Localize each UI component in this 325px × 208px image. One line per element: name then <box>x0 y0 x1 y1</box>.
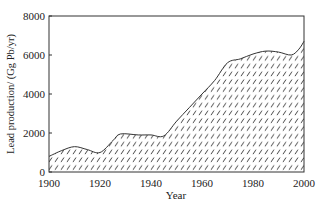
x-tick-label: 2000 <box>293 177 316 189</box>
x-tick-label: 1920 <box>89 177 112 189</box>
y-tick-label: 8000 <box>23 10 46 22</box>
plot-area <box>49 16 304 172</box>
area-chart: 02000400060008000 1900192019401960198020… <box>0 0 325 208</box>
y-axis: 02000400060008000 <box>23 10 52 178</box>
area-fill <box>49 41 304 172</box>
x-tick-label: 1960 <box>191 177 214 189</box>
y-tick-label: 2000 <box>23 127 46 139</box>
x-tick-label: 1980 <box>242 177 265 189</box>
y-axis-label: Lead production/ (Gg Pb/yr) <box>5 34 17 154</box>
x-axis-label: Year <box>166 189 187 201</box>
x-tick-label: 1940 <box>140 177 163 189</box>
y-tick-label: 4000 <box>23 88 46 100</box>
x-axis: 190019201940196019802000 <box>38 177 316 189</box>
y-tick-label: 6000 <box>23 49 46 61</box>
x-tick-label: 1900 <box>38 177 61 189</box>
